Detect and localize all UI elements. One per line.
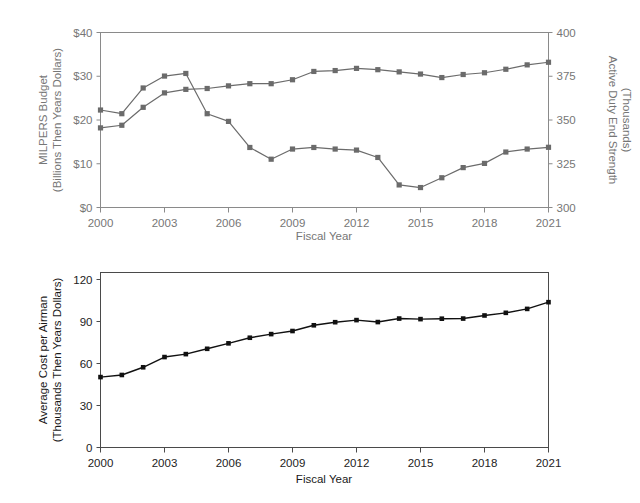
x-tick-label: 2000 <box>88 457 114 469</box>
data-point-marker <box>162 355 167 360</box>
data-point-marker <box>397 182 402 187</box>
x-tick-label: 2015 <box>408 457 434 469</box>
bottom-x-axis-ticks: 20002003200620092012201520182021 <box>88 448 562 469</box>
data-point-marker <box>397 316 402 321</box>
data-point-marker <box>290 329 295 334</box>
data-point-marker <box>184 352 189 357</box>
x-tick-label: 2006 <box>216 217 242 229</box>
data-point-marker <box>205 347 210 352</box>
x-tick-label: 2009 <box>280 457 306 469</box>
data-point-marker <box>482 313 487 318</box>
data-point-marker <box>183 71 188 76</box>
x-tick-label: 2000 <box>88 217 114 229</box>
data-point-marker <box>461 165 466 170</box>
data-point-marker <box>440 316 445 321</box>
data-point-marker <box>546 300 551 305</box>
top-x-axis-label: Fiscal Year <box>296 230 352 242</box>
top-y-axis-label-line1: MILPERS Budget <box>37 74 49 165</box>
bottom-chart-svg: 0306090120 20002003200620092012201520182… <box>0 250 640 503</box>
x-tick-label: 2015 <box>408 217 434 229</box>
y2-tick-label: 350 <box>557 114 576 126</box>
data-point-marker <box>141 365 146 370</box>
data-point-marker <box>418 317 423 322</box>
data-point-marker <box>311 69 316 74</box>
chart-panel-bottom: 0306090120 20002003200620092012201520182… <box>0 250 640 503</box>
y-tick-label: $30 <box>73 70 92 82</box>
data-point-marker <box>98 375 103 380</box>
top-y-axis-ticks: $0$10$20$30$40 <box>73 27 100 214</box>
top-y2-axis-label-line1: Active Duty End Strength <box>607 56 619 184</box>
data-point-marker <box>333 68 338 73</box>
series-line <box>101 302 549 377</box>
y2-tick-label: 400 <box>557 27 576 39</box>
bottom-x-axis-label: Fiscal Year <box>296 473 352 485</box>
data-point-marker <box>397 69 402 74</box>
data-point-marker <box>290 77 295 82</box>
data-point-marker <box>119 123 124 128</box>
y2-tick-label: 375 <box>557 70 576 82</box>
y-tick-label: 60 <box>80 358 93 370</box>
data-point-marker <box>439 175 444 180</box>
y-tick-label: 120 <box>73 274 92 286</box>
data-point-marker <box>461 72 466 77</box>
top-x-axis-ticks: 20002003200620092012201520182021 <box>88 208 562 229</box>
data-point-marker <box>354 318 359 323</box>
data-point-marker <box>226 341 231 346</box>
data-point-marker <box>354 66 359 71</box>
y-tick-label: $20 <box>73 114 92 126</box>
data-point-marker <box>504 311 509 316</box>
figure-container: $0$10$20$30$40 300325350375400 200020032… <box>0 0 640 503</box>
data-point-marker <box>354 148 359 153</box>
data-point-marker <box>205 111 210 116</box>
data-point-marker <box>312 323 317 328</box>
data-point-marker <box>418 185 423 190</box>
data-point-marker <box>546 60 551 65</box>
bottom-y-axis-label-line2: (Thousands Then Years Dollars) <box>51 277 63 442</box>
data-point-marker <box>98 107 103 112</box>
data-point-marker <box>247 81 252 86</box>
x-tick-label: 2018 <box>472 457 498 469</box>
data-point-marker <box>333 320 338 325</box>
data-point-marker <box>119 111 124 116</box>
data-point-marker <box>247 145 252 150</box>
data-point-marker <box>482 70 487 75</box>
data-point-marker <box>482 161 487 166</box>
top-y2-axis-label-line2: (Thousands) <box>621 88 633 153</box>
x-tick-label: 2009 <box>280 217 306 229</box>
top-series-group <box>98 60 551 191</box>
data-point-marker <box>311 145 316 150</box>
data-point-marker <box>525 307 530 312</box>
data-point-marker <box>376 320 381 325</box>
data-point-marker <box>503 149 508 154</box>
y-tick-label: 30 <box>80 400 93 412</box>
y-tick-label: $10 <box>73 158 92 170</box>
data-point-marker <box>120 373 125 378</box>
data-point-marker <box>98 125 103 130</box>
data-point-marker <box>141 85 146 90</box>
data-point-marker <box>205 86 210 91</box>
x-tick-label: 2012 <box>344 217 370 229</box>
data-point-marker <box>226 119 231 124</box>
data-point-marker <box>525 62 530 67</box>
data-point-marker <box>183 87 188 92</box>
data-point-marker <box>375 67 380 72</box>
data-point-marker <box>418 71 423 76</box>
y2-tick-label: 300 <box>557 202 576 214</box>
x-tick-label: 2021 <box>536 457 562 469</box>
top-chart-svg: $0$10$20$30$40 300325350375400 200020032… <box>0 0 640 250</box>
data-point-marker <box>269 81 274 86</box>
data-point-marker <box>141 105 146 110</box>
x-tick-label: 2003 <box>152 217 178 229</box>
data-point-marker <box>439 75 444 80</box>
top-plot-frame <box>101 33 549 208</box>
x-tick-label: 2006 <box>216 457 242 469</box>
top-y-axis-label-line2: (Billions Then Years Dollars) <box>51 48 63 192</box>
y-tick-label: $40 <box>73 27 92 39</box>
data-point-marker <box>162 90 167 95</box>
bottom-y-axis-label-line1: Average Cost per Airman <box>37 296 49 424</box>
y2-tick-label: 325 <box>557 158 576 170</box>
data-point-marker <box>503 67 508 72</box>
bottom-plot-frame <box>101 273 549 448</box>
data-point-marker <box>333 146 338 151</box>
top-y2-axis-ticks: 300325350375400 <box>549 27 576 214</box>
